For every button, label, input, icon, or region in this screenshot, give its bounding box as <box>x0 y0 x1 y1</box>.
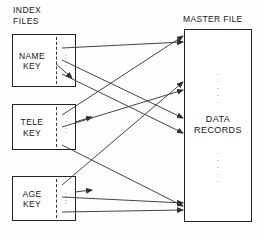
arrow-into-name-pointer <box>56 64 72 78</box>
arrow-into-age-pointer <box>75 190 92 192</box>
arrow-age-2 <box>62 197 183 203</box>
arrow-name-1 <box>62 42 183 48</box>
diagram-canvas: INDEX FILES MASTER FILE NAME KEY · · · ·… <box>0 0 263 242</box>
arrow-age-1 <box>62 82 183 185</box>
arrow-tele-3 <box>62 145 183 206</box>
arrow-name-2 <box>62 60 183 118</box>
arrow-age-3 <box>62 210 183 212</box>
pointer-arrows-group <box>0 0 263 242</box>
arrow-into-tele-pointer <box>75 117 92 122</box>
arrow-tele-2 <box>62 90 183 127</box>
